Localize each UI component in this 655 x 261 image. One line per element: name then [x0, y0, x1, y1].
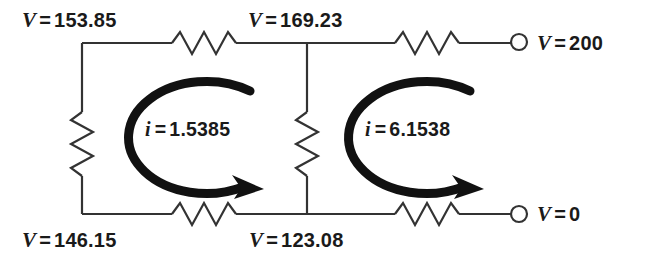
resistor-left-vertical: [71, 112, 93, 176]
current-value: 1.5385: [169, 118, 230, 140]
equals-sign: =: [264, 229, 281, 251]
equals-sign: =: [263, 9, 280, 31]
current-value: 6.1538: [389, 118, 450, 140]
resistor-middle-vertical: [296, 112, 318, 176]
voltage-symbol: V: [537, 31, 552, 55]
mesh-current-label-left: i=1.5385: [145, 118, 230, 141]
current-symbol: i: [145, 118, 153, 140]
voltage-value: 0: [569, 203, 580, 225]
current-symbol: i: [365, 118, 373, 140]
mesh-current-label-right: i=6.1538: [365, 118, 450, 141]
voltage-symbol: V: [537, 202, 552, 226]
node-label-bottom-right: V=0: [537, 202, 580, 227]
circuit-diagram: V=153.85 V=169.23 V=200 V=146.15 V=123.0…: [0, 0, 655, 261]
voltage-value: 153.85: [54, 9, 116, 31]
voltage-symbol: V: [22, 228, 37, 252]
equals-sign: =: [37, 229, 54, 251]
node-label-bottom-middle: V=123.08: [249, 228, 343, 253]
equals-sign: =: [552, 203, 569, 225]
resistor-bottom-left: [172, 203, 236, 225]
voltage-value: 169.23: [280, 9, 342, 31]
resistor-bottom-right: [395, 203, 459, 225]
equals-sign: =: [373, 118, 390, 140]
terminal-top-right: [511, 34, 527, 50]
voltage-value: 146.15: [54, 229, 116, 251]
voltage-symbol: V: [249, 228, 264, 252]
voltage-symbol: V: [22, 8, 37, 32]
voltage-value: 123.08: [281, 229, 343, 251]
node-label-top-left: V=153.85: [22, 8, 116, 33]
equals-sign: =: [37, 9, 54, 31]
resistor-top-left: [172, 32, 236, 54]
equals-sign: =: [153, 118, 170, 140]
resistor-top-right: [395, 32, 459, 54]
voltage-symbol: V: [248, 8, 263, 32]
node-label-top-right: V=200: [537, 31, 603, 56]
node-label-bottom-left: V=146.15: [22, 228, 116, 253]
voltage-value: 200: [569, 32, 603, 54]
terminal-bottom-right: [511, 206, 527, 222]
equals-sign: =: [552, 32, 569, 54]
node-label-top-middle: V=169.23: [248, 8, 342, 33]
